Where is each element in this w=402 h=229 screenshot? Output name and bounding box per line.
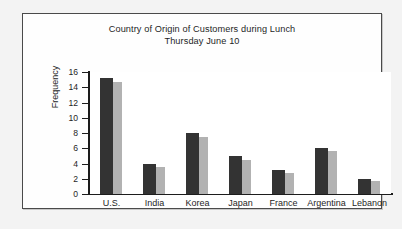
- y-axis-tick-label-wrap: 12: [34, 103, 78, 104]
- chart-title-line-2: Thursday June 10: [23, 35, 381, 47]
- chart-title-line-1: Country of Origin of Customers during Lu…: [23, 23, 381, 35]
- bar: [156, 167, 165, 194]
- chart-title: Country of Origin of Customers during Lu…: [23, 23, 381, 47]
- y-axis-tick-label: 16: [34, 67, 78, 77]
- bar-group: [358, 72, 380, 194]
- y-axis-tick: [82, 87, 88, 88]
- plot-area: [90, 72, 391, 194]
- y-axis-tick-label: 8: [34, 128, 78, 138]
- bar-group: [143, 72, 165, 194]
- y-axis-tick: [82, 194, 88, 195]
- bar: [100, 78, 113, 194]
- y-axis-tick-label-wrap: 2: [34, 179, 78, 180]
- y-axis-tick-label: 4: [34, 159, 78, 169]
- y-axis-tick-label: 14: [34, 82, 78, 92]
- bar: [186, 133, 199, 194]
- x-axis-tick-label: Lebanon: [342, 198, 397, 208]
- y-axis-tick-label: 0: [34, 189, 78, 199]
- y-axis-tick: [82, 133, 88, 134]
- y-axis-tick-label: 2: [34, 174, 78, 184]
- bar: [358, 179, 371, 194]
- bar: [113, 82, 122, 194]
- bar-group: [186, 72, 208, 194]
- bar: [242, 160, 251, 194]
- bar-group: [100, 72, 122, 194]
- bar-group: [272, 72, 294, 194]
- y-axis-tick-label: 10: [34, 113, 78, 123]
- y-axis-tick: [82, 72, 88, 73]
- y-axis-tick: [82, 103, 88, 104]
- bar-group: [315, 72, 337, 194]
- y-axis-tick: [82, 164, 88, 165]
- y-axis-tick: [82, 148, 88, 149]
- bar: [285, 173, 294, 194]
- y-axis-tick-label: 12: [34, 98, 78, 108]
- y-axis-tick-label-wrap: 6: [34, 148, 78, 149]
- y-axis-tick-label-wrap: 0: [34, 194, 78, 195]
- bar: [272, 170, 285, 194]
- bar: [328, 151, 337, 194]
- bar: [371, 181, 380, 194]
- chart-frame: Country of Origin of Customers during Lu…: [22, 13, 382, 209]
- bar-group: [229, 72, 251, 194]
- y-axis-tick-label-wrap: 14: [34, 87, 78, 88]
- chart-figure: Country of Origin of Customers during Lu…: [0, 0, 402, 229]
- y-axis-tick: [82, 118, 88, 119]
- y-axis-tick-label-wrap: 8: [34, 133, 78, 134]
- y-axis-tick-label-wrap: 16: [34, 72, 78, 73]
- y-axis-tick-label: 6: [34, 143, 78, 153]
- bar: [315, 148, 328, 194]
- y-axis-tick-label-wrap: 4: [34, 164, 78, 165]
- y-axis-tick-label-wrap: 10: [34, 118, 78, 119]
- y-axis-tick: [82, 179, 88, 180]
- bar: [199, 137, 208, 194]
- bar: [229, 156, 242, 194]
- bar: [143, 164, 156, 195]
